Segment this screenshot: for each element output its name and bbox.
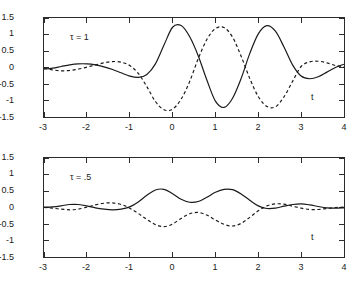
xtick-top-m1: -1 <box>109 123 149 132</box>
ytick-bottom-0: 0 <box>0 203 14 212</box>
ytick-bottom-m1: -1 <box>0 236 14 245</box>
xtick-bottom-2: 2 <box>238 263 278 272</box>
annotation-tau-top: τ = 1 <box>70 33 89 42</box>
xaxis-label-bottom: t <box>311 233 314 242</box>
xtick-top-4: 4 <box>324 123 361 132</box>
xtick-top-2: 2 <box>238 123 278 132</box>
xtick-bottom-1: 1 <box>195 263 235 272</box>
ytick-top-m1: -1 <box>0 96 14 105</box>
curve-dashed <box>44 27 344 111</box>
xtick-top-0: 0 <box>152 123 192 132</box>
ytick-top-m1.5: -1.5 <box>0 113 14 122</box>
xtick-bottom-m1: -1 <box>109 263 149 272</box>
xtick-bottom-0: 0 <box>152 263 192 272</box>
ytick-bottom-0.5: 0.5 <box>0 186 14 195</box>
plot-curves-top <box>44 18 344 117</box>
xtick-top-3: 3 <box>281 123 321 132</box>
ytick-top-0: 0 <box>0 63 14 72</box>
annotation-tau-bottom: τ = .5 <box>70 173 91 182</box>
xaxis-label-top: t <box>311 93 314 102</box>
xtick-bottom-4: 4 <box>324 263 361 272</box>
ytick-top-m0.5: -0.5 <box>0 80 14 89</box>
figure-container: 1.5 1 0.5 0 -0.5 -1 -1.5 -3 -2 -1 0 1 2 … <box>0 0 361 287</box>
xtick-bottom-3: 3 <box>281 263 321 272</box>
ytick-top-1.5: 1.5 <box>0 13 14 22</box>
ytick-top-0.5: 0.5 <box>0 46 14 55</box>
ytick-bottom-1: 1 <box>0 169 14 178</box>
xtick-top-1: 1 <box>195 123 235 132</box>
xtick-top-m2: -2 <box>66 123 106 132</box>
chart-panel-tau-1: 1.5 1 0.5 0 -0.5 -1 -1.5 -3 -2 -1 0 1 2 … <box>0 0 361 143</box>
ytick-bottom-m0.5: -0.5 <box>0 220 14 229</box>
curve-solid <box>44 189 344 210</box>
curve-solid <box>44 25 344 108</box>
xtick-bottom-m3: -3 <box>23 263 63 272</box>
ytick-top-1: 1 <box>0 29 14 38</box>
ytick-bottom-1.5: 1.5 <box>0 153 14 162</box>
xtick-bottom-m2: -2 <box>66 263 106 272</box>
xtick-top-m3: -3 <box>23 123 63 132</box>
ytick-bottom-m1.5: -1.5 <box>0 253 14 262</box>
chart-panel-tau-0.5: 1.5 1 0.5 0 -0.5 -1 -1.5 -3 -2 -1 0 1 2 … <box>0 144 361 287</box>
